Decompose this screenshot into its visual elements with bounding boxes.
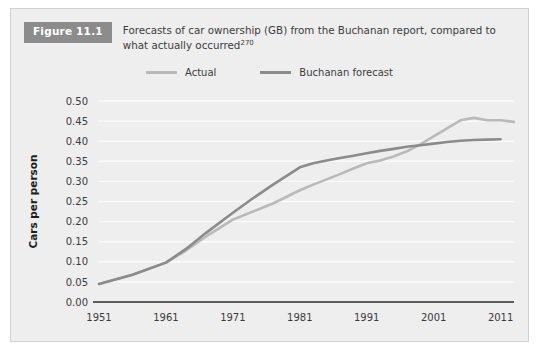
figure-caption-line1: Forecasts of car ownership (GB) from the… [123,24,496,36]
x-tick-label-1991: 1991 [354,312,379,323]
y-axis-title: Cars per person [27,154,39,248]
legend-swatch-actual [146,71,177,74]
figure-header: Figure 11.1 Forecasts of car ownership (… [24,22,514,52]
figure-card: Figure 11.1 Forecasts of car ownership (… [10,8,529,342]
x-tick-label-1961: 1961 [153,312,178,323]
legend-label-actual: Actual [185,67,216,78]
x-axis-tick-labels: 1951196119711981199120012011 [86,312,513,323]
y-tick-label-0.00: 0.00 [66,297,88,308]
y-tick-label-0.20: 0.20 [66,216,88,227]
figure-caption-line2: what actually occurred [123,39,241,51]
legend-item-buchanan-forecast: Buchanan forecast [260,67,393,78]
gridlines-group [99,101,514,282]
x-tick-label-1981: 1981 [287,312,312,323]
legend-item-actual: Actual [146,67,216,78]
x-tick-label-1951: 1951 [86,312,111,323]
legend-swatch-buchanan-forecast [260,71,291,74]
x-tick-label-2001: 2001 [421,312,446,323]
chart-legend: Actual Buchanan forecast [11,67,528,78]
y-tick-label-0.05: 0.05 [66,277,88,288]
y-tick-label-0.35: 0.35 [66,156,88,167]
chart-plot-area: 0.000.050.100.150.200.250.300.350.400.45… [11,85,530,341]
y-tick-label-0.45: 0.45 [66,116,88,127]
figure-number-badge: Figure 11.1 [24,22,112,43]
figure-caption-footnote: 270 [240,38,253,46]
line-chart-svg: 0.000.050.100.150.200.250.300.350.400.45… [11,85,530,341]
y-axis-tick-labels: 0.000.050.100.150.200.250.300.350.400.45… [66,96,88,308]
y-tick-label-0.10: 0.10 [66,256,88,267]
y-tick-label-0.50: 0.50 [66,96,88,107]
y-tick-label-0.30: 0.30 [66,176,88,187]
x-tick-label-2011: 2011 [488,312,513,323]
y-tick-label-0.25: 0.25 [66,196,88,207]
y-tick-label-0.15: 0.15 [66,236,88,247]
x-tick-label-1971: 1971 [220,312,245,323]
y-tick-label-0.40: 0.40 [66,136,88,147]
legend-label-buchanan-forecast: Buchanan forecast [299,67,393,78]
figure-caption: Forecasts of car ownership (GB) from the… [123,22,514,52]
